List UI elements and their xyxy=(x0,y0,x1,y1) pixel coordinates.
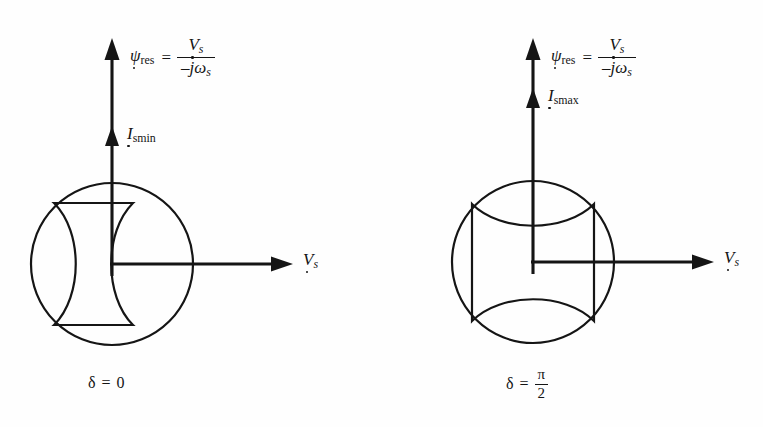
delta-fraction-right: π 2 xyxy=(535,367,549,402)
delta-value-left: 0 xyxy=(117,375,125,391)
phasor-diagram-delta-zero: ψres = Vs –jωs Ismin Vs δ = 0 xyxy=(0,0,381,427)
vs-numerator-subscript-right: s xyxy=(620,42,625,56)
delta-symbol-right: δ xyxy=(506,376,514,392)
ismin-subscript-left: smin xyxy=(133,131,156,145)
psi-equals-right: = xyxy=(582,49,592,66)
vs-numerator-subscript-left: s xyxy=(199,42,204,56)
ismin-symbol-left: I xyxy=(127,125,133,142)
vs-axis-label-right: Vs xyxy=(724,249,739,269)
delta-equals-right: = xyxy=(520,376,529,392)
ismax-label-right: Ismax xyxy=(548,87,579,107)
vs-arrowhead-left xyxy=(271,257,293,272)
vs-numerator-symbol-right: V xyxy=(609,36,619,54)
ismin-label-left: Ismin xyxy=(127,125,156,145)
psi-res-arrowhead-right xyxy=(526,38,541,60)
figure-canvas: ψres = Vs –jωs Ismin Vs δ = 0 xyxy=(0,0,763,427)
vs-axis-subscript-left: s xyxy=(313,257,318,271)
denominator-symbol-right: –jω xyxy=(602,58,627,77)
ismin-arrowhead-left xyxy=(105,126,119,146)
psi-fraction-right: Vs –jωs xyxy=(598,36,636,79)
ismax-subscript-right: smax xyxy=(554,93,579,107)
caption-delta-zero: δ = 0 xyxy=(88,375,125,391)
denominator-subscript-right: s xyxy=(627,65,632,79)
psi-symbol-right: ψ xyxy=(551,47,562,64)
psi-subscript-right: res xyxy=(562,54,576,68)
denominator-symbol-left: –jω xyxy=(181,58,206,77)
psi-res-expression-left: ψres = Vs –jωs xyxy=(130,36,215,79)
delta-denominator-right: 2 xyxy=(535,385,549,402)
vs-axis-symbol-left: V xyxy=(303,251,313,268)
delta-symbol-left: δ xyxy=(88,375,96,391)
psi-equals-left: = xyxy=(161,49,171,66)
vs-arrowhead-right xyxy=(692,255,714,270)
vs-numerator-symbol-left: V xyxy=(188,36,198,54)
vs-axis-symbol-right: V xyxy=(724,249,734,266)
psi-fraction-left: Vs –jωs xyxy=(177,36,215,79)
ismax-arrowhead-right xyxy=(526,88,540,108)
psi-subscript-left: res xyxy=(141,54,155,68)
phasor-diagram-delta-half-pi: ψres = Vs –jωs Ismax Vs δ = π xyxy=(381,0,762,427)
delta-numerator-right: π xyxy=(535,367,549,384)
psi-res-expression-right: ψres = Vs –jωs xyxy=(551,36,636,79)
denominator-subscript-left: s xyxy=(206,65,211,79)
caption-delta-half-pi: δ = π 2 xyxy=(506,367,548,402)
vs-axis-label-left: Vs xyxy=(303,251,318,271)
ismax-symbol-right: I xyxy=(548,87,554,104)
vs-axis-subscript-right: s xyxy=(734,255,739,269)
psi-res-arrowhead-left xyxy=(105,38,120,60)
psi-symbol-left: ψ xyxy=(130,47,141,64)
delta-equals-left: = xyxy=(102,375,111,391)
